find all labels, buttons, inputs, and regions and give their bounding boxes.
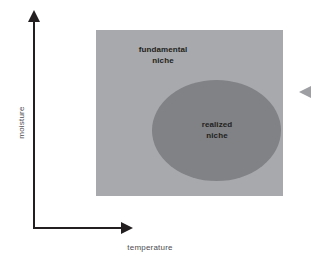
y-axis-label: moisture [17, 85, 26, 161]
fundamental-niche-label-line2: niche [113, 55, 213, 66]
fundamental-niche-label-line1: fundamental [113, 44, 213, 55]
x-axis-arrow-icon [121, 222, 133, 234]
x-axis-label: temperature [100, 243, 200, 252]
realized-niche-label: realized niche [167, 119, 267, 141]
y-axis-line [33, 20, 35, 229]
realized-niche-label-line1: realized [167, 119, 267, 130]
y-axis-arrow-icon [28, 10, 40, 22]
left-pointing-triangle-icon [299, 86, 311, 98]
fundamental-niche-label: fundamental niche [113, 44, 213, 66]
x-axis-line [33, 227, 125, 229]
realized-niche-label-line2: niche [167, 130, 267, 141]
niche-diagram-figure: fundamental niche realized niche moistur… [0, 0, 311, 268]
